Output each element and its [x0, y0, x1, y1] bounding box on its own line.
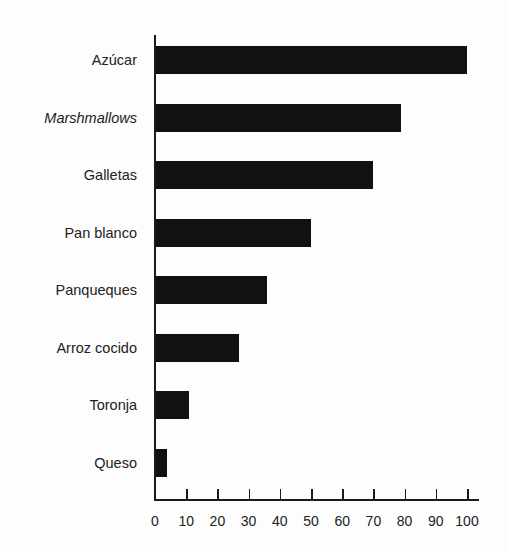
- category-label: Azúcar: [92, 46, 137, 74]
- category-label: Pan blanco: [64, 219, 137, 247]
- x-tick-mark: [217, 489, 219, 499]
- category-label: Toronja: [89, 391, 137, 419]
- bar: [156, 449, 167, 477]
- bar: [156, 334, 239, 362]
- x-tick-mark: [280, 489, 282, 499]
- x-tick-mark: [405, 489, 407, 499]
- bar: [156, 46, 467, 74]
- x-tick-label: 100: [447, 513, 487, 529]
- bar: [156, 219, 311, 247]
- x-tick-mark: [373, 489, 375, 499]
- bar: [156, 276, 267, 304]
- category-label: Queso: [94, 449, 137, 477]
- x-tick-mark: [186, 489, 188, 499]
- category-label: Arroz cocido: [56, 334, 137, 362]
- bar: [156, 104, 401, 132]
- x-tick-mark: [311, 489, 313, 499]
- bar: [156, 161, 373, 189]
- x-tick-mark: [436, 489, 438, 499]
- x-axis: [154, 499, 479, 501]
- x-tick-mark: [342, 489, 344, 499]
- category-label: Panqueques: [56, 276, 137, 304]
- category-label: Marshmallows: [44, 104, 137, 132]
- category-label: Galletas: [84, 161, 137, 189]
- glycemic-index-bar-chart: AzúcarMarshmallowsGalletasPan blancoPanq…: [0, 0, 507, 552]
- bar: [156, 391, 189, 419]
- x-tick-mark: [249, 489, 251, 499]
- x-tick-mark: [467, 489, 469, 499]
